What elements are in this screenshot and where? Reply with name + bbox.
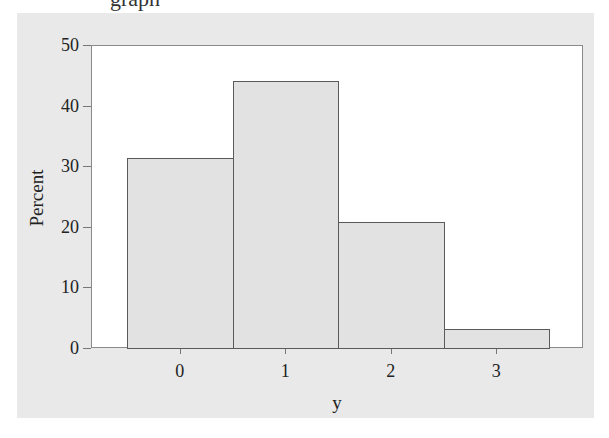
x-tick-label: 2 [376,362,406,380]
y-tick-label: 0 [39,339,79,357]
y-tick-label: 50 [39,36,79,54]
x-tick-label: 0 [165,362,195,380]
y-tick [83,106,91,107]
x-tick-label: 3 [481,362,511,380]
bar-0 [127,158,234,349]
x-tick-label: 1 [270,362,300,380]
y-tick-label: 40 [39,97,79,115]
x-axis-title: y [332,392,342,414]
y-tick-label: 10 [39,278,79,296]
y-tick [83,227,91,228]
y-tick [83,45,91,46]
y-tick [83,166,91,167]
y-axis-title: Percent [26,170,48,227]
y-tick [83,348,91,349]
bar-1 [233,81,340,349]
y-tick [83,287,91,288]
bar-2 [338,222,445,349]
clipped-heading-fragment: graph [110,0,160,12]
bar-3 [444,329,551,349]
